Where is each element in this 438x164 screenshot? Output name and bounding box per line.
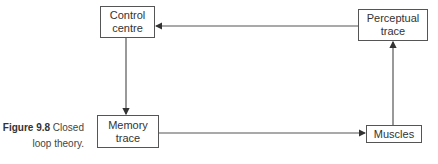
node-label: Control centre: [110, 9, 145, 35]
caption-line-1: Figure 9.8 Closed: [0, 120, 84, 136]
node-control-centre: Control centre: [100, 6, 155, 38]
closed-loop-diagram: Control centre Perceptual trace Memory t…: [0, 0, 438, 164]
figure-label: Figure 9.8: [3, 122, 50, 133]
node-label: Memory trace: [108, 119, 148, 145]
node-memory-trace: Memory trace: [97, 115, 159, 148]
figure-caption: Figure 9.8 Closed loop theory.: [0, 120, 84, 152]
caption-text-1: Closed: [53, 122, 84, 133]
node-label: Perceptual trace: [367, 12, 420, 38]
node-muscles: Muscles: [366, 125, 422, 143]
node-perceptual-trace: Perceptual trace: [358, 9, 428, 41]
node-label: Muscles: [374, 128, 414, 141]
caption-line-2: loop theory.: [0, 136, 84, 152]
